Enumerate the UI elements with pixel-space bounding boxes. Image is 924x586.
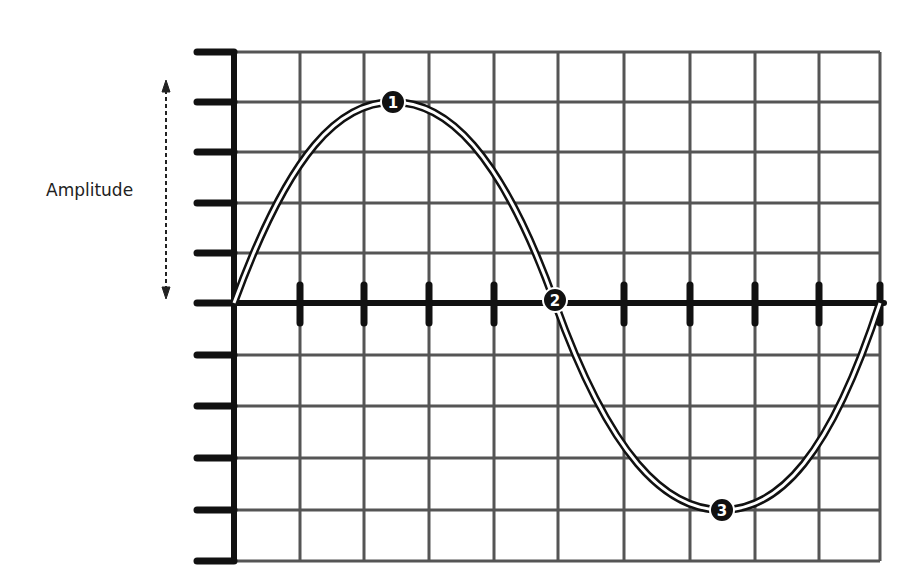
amplitude-label: Amplitude xyxy=(46,180,133,200)
marker-1-label: 1 xyxy=(388,94,398,112)
marker-2-label: 2 xyxy=(550,292,560,310)
marker-2: 2 xyxy=(543,288,567,312)
marker-3: 3 xyxy=(710,498,734,522)
marker-3-label: 3 xyxy=(717,502,727,520)
amplitude-arrow-icon xyxy=(162,80,170,299)
y-axis xyxy=(197,50,234,563)
sine-wave-diagram: 1 2 3 Amplitude xyxy=(0,0,924,586)
marker-1: 1 xyxy=(381,90,405,114)
